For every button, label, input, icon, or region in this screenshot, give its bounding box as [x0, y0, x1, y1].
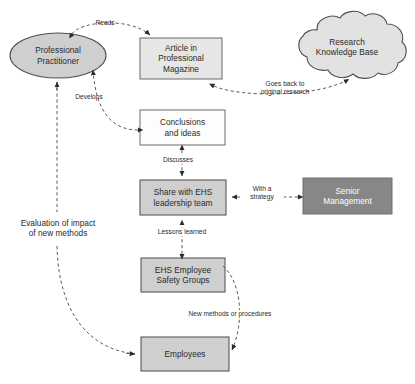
node-share-with-ehs-leadership-team-shape[interactable] — [140, 180, 226, 215]
node-research-knowledge-base-shape[interactable] — [299, 11, 406, 78]
edge-label-evaluation-of-impact-of-new-methods: Evaluation of impact of new methods — [8, 218, 108, 239]
node-conclusions-and-ideas-shape[interactable] — [140, 110, 225, 145]
edge-label-develops: Develops — [66, 93, 112, 101]
edge-label-with-a-strategy: With a strategy — [240, 185, 284, 201]
edge-label-reads: Reads — [85, 19, 125, 27]
node-professional-practitioner-shape[interactable] — [10, 33, 106, 78]
edge-label-goes-back-to-original-research: Goes back to original research — [250, 80, 320, 96]
edge-label-discusses: Discusses — [152, 156, 204, 164]
diagram-canvas: Professional Practitioner Article in Pro… — [0, 0, 415, 384]
node-article-in-professional-magazine-shape[interactable] — [140, 38, 222, 79]
node-ehs-employee-safety-groups-shape[interactable] — [141, 258, 225, 292]
diagram-edges-and-shapes — [0, 0, 415, 384]
node-employees-shape[interactable] — [141, 337, 229, 371]
edge-label-new-methods-or-procedures: New methods or procedures — [173, 310, 287, 318]
edge-label-lessons-learned: Lessons learned — [145, 228, 219, 236]
node-senior-management-shape[interactable] — [303, 178, 392, 214]
